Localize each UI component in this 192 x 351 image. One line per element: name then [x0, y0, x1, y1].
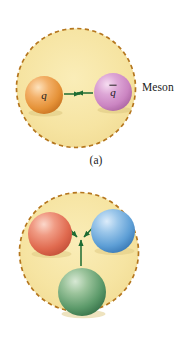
figure-root: q q Meson (a) — [0, 0, 192, 351]
panel-baryon: Baryon (b) — [0, 176, 192, 351]
antiquark-symbol-label: q — [109, 85, 116, 98]
panel-meson: q q Meson (a) — [0, 0, 192, 176]
quark-symbol-label: q — [41, 89, 47, 101]
meson-side-label: Meson — [142, 81, 174, 93]
caption-a: (a) — [0, 154, 192, 166]
baryon-diagram — [0, 176, 192, 351]
svg-text:q: q — [110, 86, 116, 98]
